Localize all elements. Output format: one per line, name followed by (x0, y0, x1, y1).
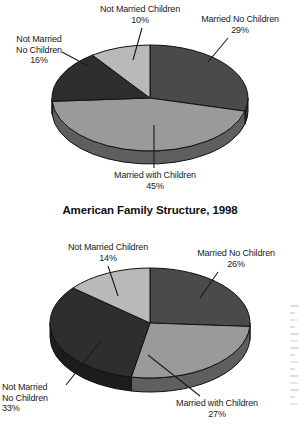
pie-label-text: Not Married No Children (16, 34, 62, 55)
pie-label-not-married-no-children: Not Married No Children33% (2, 382, 80, 414)
pie-label-percent: 33% (2, 403, 80, 414)
pie-label-not-married-no-children: Not Married No Children16% (2, 34, 76, 66)
pie-label-percent: 16% (2, 55, 76, 66)
pie-3d-top (52, 45, 248, 151)
pie-slice-married-with-children (131, 323, 250, 378)
scan-artifact-margin (290, 305, 299, 430)
pie-label-percent: 29% (180, 25, 300, 36)
pie-chart-bottom: American Family Structure, 1998 Not Marr… (0, 200, 300, 437)
pie-label-married-with-children: Married with Children27% (152, 398, 282, 419)
pie-label-text: Not Married Children (68, 242, 148, 252)
pie-leader-line-married-no-children (208, 38, 228, 62)
pie-label-percent: 27% (152, 409, 282, 420)
pie-label-text: Married with Children (176, 398, 258, 408)
pie-label-percent: 45% (85, 181, 225, 192)
pie-label-married-no-children: Married No Children29% (180, 14, 300, 35)
pie-3d-top (50, 268, 250, 378)
pie-label-percent: 14% (38, 253, 178, 264)
pie-label-text: Married No Children (197, 248, 275, 258)
pie-label-percent: 26% (175, 259, 297, 270)
pie-label-married-with-children: Married with Children45% (85, 170, 225, 191)
pie-label-text: Not Married No Children (2, 382, 48, 403)
pie-chart-top: Not Married Children10%Married No Childr… (0, 0, 300, 200)
pie-label-text: Married No Children (201, 14, 279, 24)
figure-page: Not Married Children10%Married No Childr… (0, 0, 300, 437)
pie-label-not-married-children: Not Married Children14% (38, 242, 178, 263)
pie-label-married-no-children: Married No Children26% (175, 248, 297, 269)
pie-label-text: Married with Children (114, 170, 196, 180)
pie-label-text: Not Married Children (100, 4, 180, 14)
